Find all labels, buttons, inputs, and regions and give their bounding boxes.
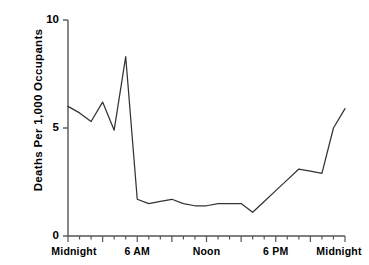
data-series-line [68, 57, 345, 213]
x-axis-ticks [68, 236, 345, 242]
y-axis-ticks [63, 20, 68, 236]
line-chart-plot [0, 0, 369, 265]
axis-lines [68, 20, 345, 236]
chart-container: Deaths Per 1,000 Occupants 10 5 0 Midnig… [0, 0, 369, 265]
